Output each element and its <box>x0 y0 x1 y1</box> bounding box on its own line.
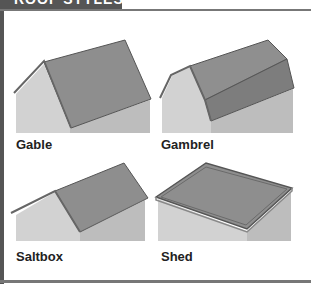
label-saltbox: Saltbox <box>16 249 63 264</box>
shed-illustration <box>156 163 292 241</box>
bottom-frame-rule <box>0 280 311 283</box>
gambrel-illustration <box>160 40 294 133</box>
gable-illustration <box>14 40 151 133</box>
label-shed: Shed <box>161 249 193 264</box>
label-gable: Gable <box>16 137 52 152</box>
saltbox-illustration <box>11 163 148 241</box>
label-gambrel: Gambrel <box>161 137 214 152</box>
